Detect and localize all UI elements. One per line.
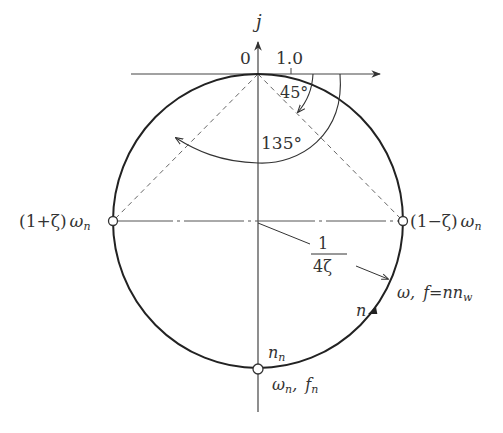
point-bottom	[253, 364, 263, 374]
point-right	[399, 217, 408, 226]
right-point-label: (1−ζ)ωn	[410, 211, 482, 233]
angle-45-label: 45°	[280, 83, 308, 102]
tick-label: 1.0	[276, 48, 303, 68]
point-left	[109, 217, 118, 226]
angle-135-label: 135°	[261, 133, 302, 153]
dashed-chord-left	[113, 74, 258, 221]
radius-denominator: 4ζ	[313, 257, 332, 276]
axis-label-j: j	[252, 11, 262, 32]
frequency-circle-diagram: j 0 1.0 45° 135° (1+ζ)ωn (1−ζ)ωn 1 4ζ ω,…	[0, 0, 503, 433]
bottom-below-label: ωn,fn	[272, 375, 318, 396]
locus-pointer	[356, 266, 388, 279]
locus-label: ω,f=nnw	[397, 283, 473, 304]
origin-label: 0	[240, 48, 251, 68]
radius-numerator: 1	[318, 234, 328, 253]
radius-leader	[258, 223, 310, 244]
bottom-top-label: nn	[268, 343, 285, 364]
left-point-label: (1+ζ)ωn	[19, 211, 91, 233]
direction-label: n	[356, 301, 366, 320]
